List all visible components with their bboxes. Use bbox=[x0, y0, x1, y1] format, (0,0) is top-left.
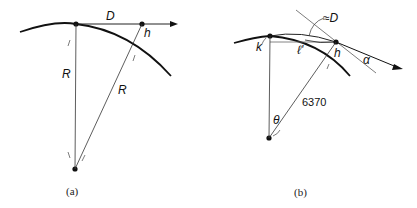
label-height-h: h bbox=[334, 46, 341, 60]
figure-b: ≈D k ℓ' h α 6370 θ (b) bbox=[234, 10, 403, 199]
label-distance-d: D bbox=[106, 9, 115, 23]
label-radius-left: R bbox=[62, 67, 71, 81]
arrow-head-icon bbox=[392, 64, 403, 70]
label-angle-alpha: α bbox=[363, 53, 371, 67]
label-earth-radius: 6370 bbox=[302, 96, 326, 108]
arrow-head-icon bbox=[170, 21, 178, 27]
label-point-k: k bbox=[256, 40, 263, 54]
diagram-canvas: D h R R (a) ≈D k ℓ' h bbox=[0, 0, 417, 208]
figure-a: D h R R (a) bbox=[20, 9, 178, 198]
label-height-h: h bbox=[144, 26, 151, 40]
radius-line-vertical bbox=[75, 24, 76, 169]
label-radius-right: R bbox=[118, 83, 127, 97]
label-approx-distance: ≈D bbox=[323, 11, 339, 25]
caption-a: (a) bbox=[66, 185, 79, 198]
label-angle-theta: θ bbox=[273, 113, 280, 127]
radius-line-vertical bbox=[269, 36, 270, 138]
caption-b: (b) bbox=[294, 186, 307, 199]
label-chord: ℓ' bbox=[297, 43, 304, 57]
radius-line-slanted bbox=[75, 24, 142, 169]
